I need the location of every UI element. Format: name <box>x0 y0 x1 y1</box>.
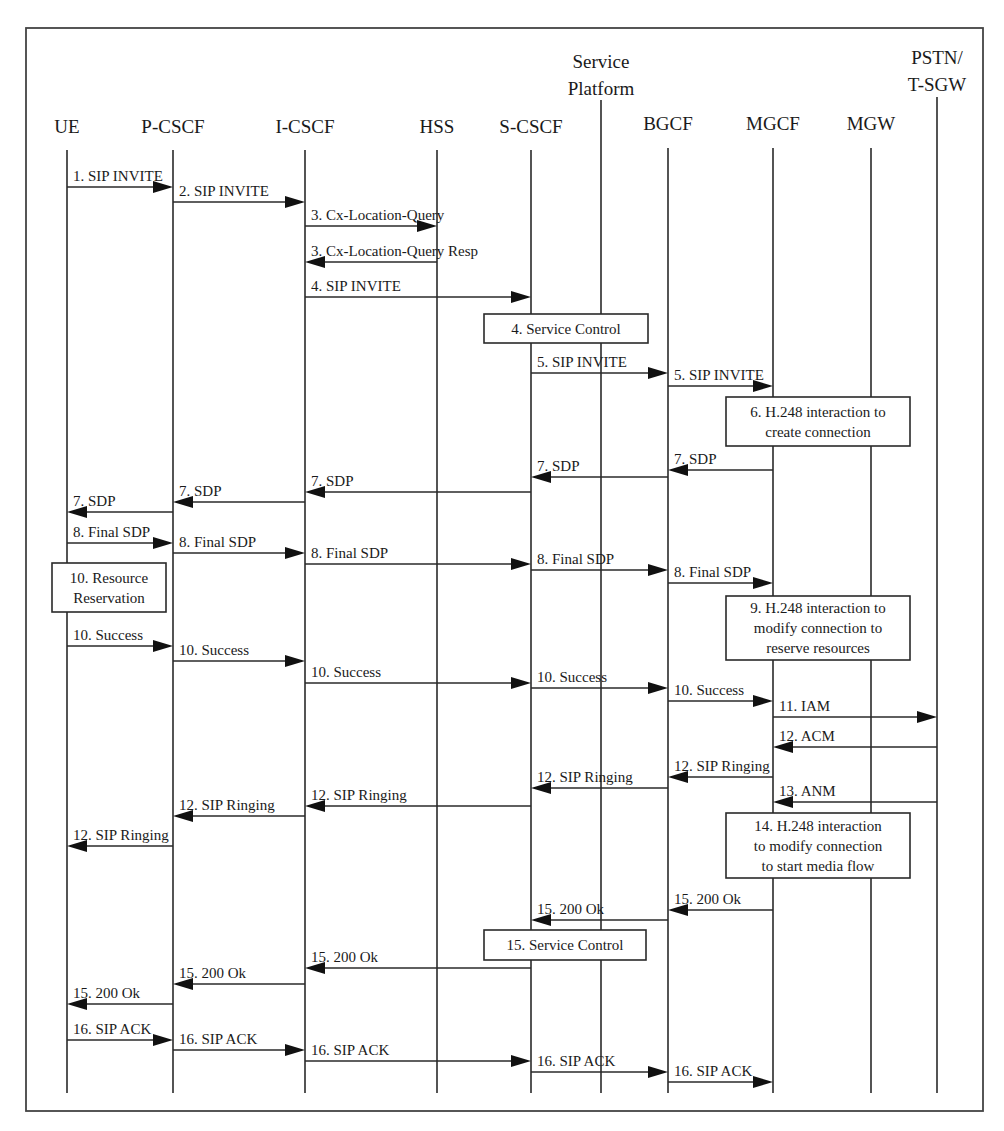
message-label: 11. IAM <box>779 698 830 714</box>
participant-label: HSS <box>420 116 455 137</box>
message-arrow: 16. SIP ACK <box>305 1042 531 1067</box>
message-arrow: 2. SIP INVITE <box>173 183 305 208</box>
participant-label: MGCF <box>746 113 800 134</box>
message-arrow: 12. SIP Ringing <box>173 797 305 822</box>
message-arrow: 10. Success <box>305 664 531 689</box>
arrowhead-icon <box>285 196 305 208</box>
message-label: 10. Success <box>674 682 744 698</box>
message-arrow: 12. SIP Ringing <box>305 787 531 812</box>
message-arrow: 4. SIP INVITE <box>305 278 531 303</box>
message-arrow: 10. Success <box>67 627 173 652</box>
message-arrow: 10. Success <box>173 642 305 667</box>
process-box-text: to modify connection <box>754 838 883 854</box>
arrowhead-icon <box>753 577 773 589</box>
message-label: 10. Success <box>179 642 249 658</box>
process-box-text: modify connection to <box>754 620 882 636</box>
arrowhead-icon <box>511 1055 531 1067</box>
process-box-text: 4. Service Control <box>511 321 621 337</box>
message-arrow: 3. Cx-Location-Query <box>305 207 445 232</box>
message-arrow: 7. SDP <box>305 473 531 498</box>
message-label: 12. SIP Ringing <box>73 827 169 843</box>
message-arrow: 5. SIP INVITE <box>668 367 773 392</box>
arrowhead-icon <box>917 711 937 723</box>
arrowhead-icon <box>285 1044 305 1056</box>
process-box-text: 10. Resource <box>70 570 149 586</box>
message-label: 3. Cx-Location-Query Resp <box>311 243 478 259</box>
message-label: 8. Final SDP <box>674 564 751 580</box>
sequence-diagram: 1. SIP INVITE2. SIP INVITE3. Cx-Location… <box>0 0 1004 1131</box>
arrowhead-icon <box>153 1034 173 1046</box>
message-label: 16. SIP ACK <box>674 1063 752 1079</box>
message-label: 5. SIP INVITE <box>674 367 764 383</box>
participant-label: UE <box>54 116 79 137</box>
message-label: 12. SIP Ringing <box>537 769 633 785</box>
message-label: 8. Final SDP <box>537 551 614 567</box>
message-label: 15. 200 Ok <box>311 949 379 965</box>
message-label: 16. SIP ACK <box>537 1053 615 1069</box>
process-box: 10. ResourceReservation <box>52 563 166 612</box>
message-label: 12. SIP Ringing <box>674 758 770 774</box>
participant-label: Platform <box>568 78 635 99</box>
message-label: 15. 200 Ok <box>179 965 247 981</box>
process-box: 15. Service Control <box>484 930 646 960</box>
message-arrow: 3. Cx-Location-Query Resp <box>305 243 478 268</box>
participant-label: Service <box>573 51 630 72</box>
message-arrow: 7. SDP <box>67 493 173 518</box>
process-box-text: reserve resources <box>766 640 870 656</box>
message-arrow: 15. 200 Ok <box>173 965 305 990</box>
message-arrow: 7. SDP <box>668 451 773 476</box>
arrowhead-icon <box>511 677 531 689</box>
message-label: 5. SIP INVITE <box>537 354 627 370</box>
message-arrow: 10. Success <box>668 682 773 707</box>
message-label: 3. Cx-Location-Query <box>311 207 445 223</box>
message-label: 1. SIP INVITE <box>73 168 163 184</box>
message-label: 16. SIP ACK <box>179 1031 257 1047</box>
message-arrow: 12. SIP Ringing <box>67 827 173 852</box>
message-arrow: 7. SDP <box>531 458 668 483</box>
arrowhead-icon <box>153 640 173 652</box>
arrowhead-icon <box>511 291 531 303</box>
arrowhead-icon <box>648 367 668 379</box>
message-arrow: 8. Final SDP <box>531 551 668 576</box>
arrowhead-icon <box>285 655 305 667</box>
message-label: 12. ACM <box>779 728 835 744</box>
message-label: 7. SDP <box>537 458 580 474</box>
message-arrow: 12. ACM <box>773 728 937 753</box>
message-arrow: 12. SIP Ringing <box>531 769 668 794</box>
message-arrow: 16. SIP ACK <box>668 1063 773 1088</box>
message-label: 15. 200 Ok <box>537 901 605 917</box>
process-box-text: to start media flow <box>762 858 875 874</box>
process-box: 4. Service Control <box>484 314 648 343</box>
message-label: 12. SIP Ringing <box>179 797 275 813</box>
message-label: 2. SIP INVITE <box>179 183 269 199</box>
message-arrow: 15. 200 Ok <box>531 901 668 926</box>
message-arrow: 13. ANM <box>773 783 937 808</box>
message-arrow: 16. SIP ACK <box>173 1031 305 1056</box>
message-label: 8. Final SDP <box>179 534 256 550</box>
message-arrow: 5. SIP INVITE <box>531 354 668 379</box>
message-label: 13. ANM <box>779 783 836 799</box>
message-arrow: 16. SIP ACK <box>67 1021 173 1046</box>
process-boxes: 4. Service Control6. H.248 interaction t… <box>52 314 910 960</box>
message-label: 8. Final SDP <box>311 545 388 561</box>
message-label: 12. SIP Ringing <box>311 787 407 803</box>
participant-label: PSTN/ <box>911 47 963 68</box>
process-box: 6. H.248 interaction tocreate connection <box>726 397 910 446</box>
process-box-text: 9. H.248 interaction to <box>750 600 885 616</box>
message-label: 16. SIP ACK <box>73 1021 151 1037</box>
participant-label: BGCF <box>643 113 693 134</box>
message-label: 10. Success <box>311 664 381 680</box>
message-label: 10. Success <box>73 627 143 643</box>
arrowhead-icon <box>648 1066 668 1078</box>
message-arrow: 8. Final SDP <box>67 524 173 549</box>
message-arrow: 11. IAM <box>773 698 937 723</box>
message-label: 7. SDP <box>73 493 116 509</box>
message-label: 15. 200 Ok <box>674 891 742 907</box>
participant-label: I-CSCF <box>275 116 334 137</box>
message-label: 16. SIP ACK <box>311 1042 389 1058</box>
message-label: 7. SDP <box>674 451 717 467</box>
participant-label: P-CSCF <box>141 116 204 137</box>
arrowhead-icon <box>753 695 773 707</box>
message-arrow: 10. Success <box>531 669 668 694</box>
participant-label: S-CSCF <box>499 116 562 137</box>
